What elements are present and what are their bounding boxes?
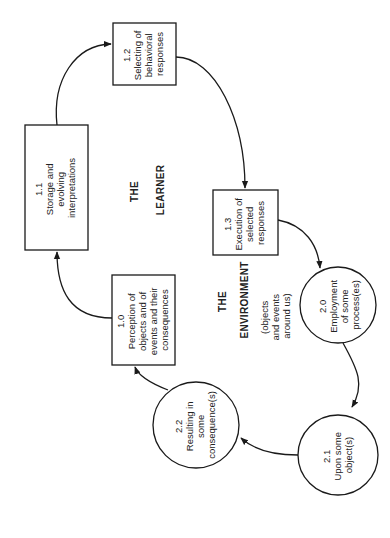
arrow-1.1-to-1.2 (56, 44, 111, 125)
arrow-1.0-to-1.1 (57, 252, 112, 318)
circle-2.2-line: 2.2 (173, 420, 184, 433)
box-1.0-line: 1.0 (115, 315, 126, 328)
learning-cycle-diagram: 1.2 Selecting of behavioral responses 1.… (0, 0, 390, 538)
arrow-2.1-to-2.2 (241, 438, 298, 455)
box-1.1-line: Storage and (44, 163, 55, 215)
environment-label-line: ENVIRONMENT (239, 261, 250, 338)
environment-label: THE ENVIRONMENT (217, 261, 250, 338)
box-1.3: 1.3 Execution of selected responses (213, 190, 278, 255)
box-1.0-line: objects and of (137, 291, 148, 351)
box-1.1-line: evolving (55, 172, 66, 207)
arrow-2.0-to-2.1 (343, 343, 359, 407)
box-1.2-line: behavioral (143, 33, 154, 77)
box-1.0-line: Perception of (126, 293, 137, 349)
environment-label-line: THE (217, 291, 228, 312)
environment-note-line: around us) (281, 293, 292, 338)
environment-note-line: (objects (259, 300, 270, 334)
box-1.3-line: selected (244, 207, 255, 242)
circle-2.2-line: some (195, 415, 206, 438)
box-1.2-line: responses (154, 32, 165, 76)
box-1.2: 1.2 Selecting of behavioral responses (113, 23, 176, 85)
box-1.3-line: responses (255, 201, 266, 245)
circle-2.0-line: process(es) (350, 280, 361, 330)
box-1.1-line: interpretations (66, 158, 77, 218)
circle-2.0-line: of some (339, 289, 350, 323)
learner-label: THE LEARNER (129, 164, 166, 215)
box-1.0-line: events and their (148, 288, 159, 356)
circle-2.0-line: Employment (328, 280, 339, 333)
box-1.1-line: 1.1 (33, 183, 44, 196)
box-1.1: 1.1 Storage and evolving interpretations (25, 125, 88, 250)
box-1.0-line: consequences (159, 289, 170, 351)
learner-label-line: LEARNER (155, 164, 166, 215)
box-1.0: 1.0 Perception of objects and of events … (112, 275, 175, 365)
box-1.2-line: Selecting of (132, 30, 143, 80)
circle-2.1-line: 2.1 (321, 450, 332, 463)
circle-2.2: 2.2 Resulting in some consequence(s) (153, 382, 239, 468)
environment-note: (objects and events around us) (259, 291, 292, 340)
learner-label-line: THE (129, 181, 140, 202)
circle-2.0-line: 2.0 (317, 300, 328, 313)
circle-2.2-line: Resulting in (184, 402, 195, 452)
box-1.3-line: Execution of (233, 198, 244, 251)
circle-2.0: 2.0 Employment of some process(es) (300, 267, 376, 343)
arrow-1.2-to-1.3 (176, 57, 245, 188)
circle-2.1: 2.1 Upon some object(s) (298, 415, 378, 495)
environment-note-line: and events (270, 294, 281, 341)
circle-2.2-line: consequence(s) (206, 391, 217, 459)
box-1.3-line: 1.3 (222, 218, 233, 231)
box-1.2-line: 1.2 (121, 49, 132, 62)
arrow-1.3-to-2.0 (278, 220, 320, 268)
circle-2.1-line: Upon some (332, 432, 343, 481)
arrow-2.2-to-1.0 (135, 367, 168, 390)
circle-2.1-line: object(s) (343, 437, 354, 473)
